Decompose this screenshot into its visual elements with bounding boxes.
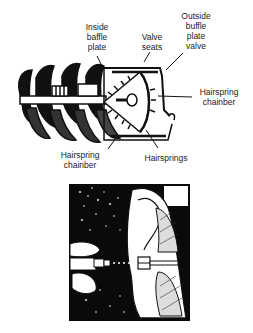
label-hairsprings: Hairsprings <box>138 153 194 163</box>
label-valve-seats: Valve seats <box>135 32 169 52</box>
label-inside-baffle-plate: Inside baffle plate <box>80 22 114 52</box>
screw-mechanism-drawing <box>19 64 175 143</box>
label-hairspring-chainber-bottom: Hairspring chainber <box>54 150 106 170</box>
label-hairspring-chainber-right: Hairspring chainber <box>193 87 245 107</box>
ear-illustration <box>69 184 190 321</box>
label-outside-buffle-plate-valve: Outside buffle plate valve <box>176 11 216 51</box>
